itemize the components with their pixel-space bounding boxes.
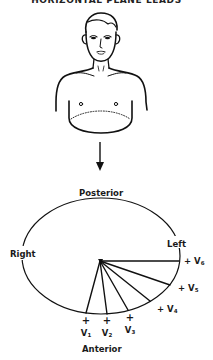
lead-line-v5 xyxy=(100,261,170,285)
lead-label-v6: + V6 xyxy=(184,257,205,267)
polarity-plus-icon: + xyxy=(100,316,114,326)
label-right: Right xyxy=(10,250,36,259)
label-posterior: Posterior xyxy=(79,189,123,198)
lead-line-v4 xyxy=(100,261,150,301)
polarity-plus-icon: + xyxy=(178,283,185,293)
lead-label-v3: + V3 xyxy=(123,313,137,336)
lead-label-v4: + V4 xyxy=(157,305,178,315)
label-anterior: Anterior xyxy=(82,345,122,354)
horizontal-plane-ellipse xyxy=(14,198,182,314)
lead-line-v3 xyxy=(100,261,128,310)
down-arrow-icon xyxy=(96,142,104,171)
torso-illustration xyxy=(56,13,147,133)
diagram-canvas xyxy=(0,0,213,360)
lead-label-v1: + V1 xyxy=(79,316,93,339)
lead-line-v1 xyxy=(86,261,100,313)
lead-label-v2: + V2 xyxy=(100,316,114,339)
lead-line-v2 xyxy=(100,261,107,314)
polarity-plus-icon: + xyxy=(123,313,137,323)
polarity-plus-icon: + xyxy=(79,316,93,326)
lead-label-v5: + V5 xyxy=(178,284,199,294)
polarity-plus-icon: + xyxy=(157,304,164,314)
polarity-plus-icon: + xyxy=(184,256,191,266)
label-left: Left xyxy=(167,240,186,249)
